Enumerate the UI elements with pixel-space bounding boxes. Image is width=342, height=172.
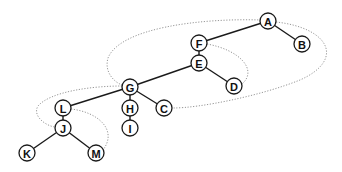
node-d: D [226, 78, 242, 94]
node-l: L [55, 100, 71, 116]
node-label: C [160, 103, 168, 115]
node-label: M [91, 148, 100, 160]
node-label: A [264, 16, 272, 28]
node-g: G [122, 79, 138, 95]
tree-nodes: ABFEDGHICLJKM [19, 13, 310, 161]
node-label: D [230, 81, 238, 93]
node-m: M [88, 145, 104, 161]
node-label: B [298, 39, 306, 51]
thread-g-j-loop [37, 86, 122, 127]
thread-curves [37, 20, 327, 150]
node-label: I [128, 123, 131, 135]
node-j: J [55, 120, 71, 136]
node-label: F [196, 38, 203, 50]
node-k: K [19, 145, 35, 161]
node-c: C [156, 100, 172, 116]
edge-g-l [63, 87, 130, 108]
node-i: I [122, 120, 138, 136]
edge-a-f [199, 21, 268, 43]
node-label: G [126, 82, 135, 94]
node-label: H [126, 103, 134, 115]
node-label: J [60, 123, 66, 135]
node-e: E [191, 55, 207, 71]
node-a: A [260, 13, 276, 29]
node-label: L [60, 103, 67, 115]
thread-f-d-loop [207, 44, 248, 84]
thread-l-m-loop [71, 109, 108, 150]
thread-outer-loop [107, 20, 326, 108]
node-label: E [195, 58, 202, 70]
node-label: K [23, 148, 31, 160]
node-h: H [122, 100, 138, 116]
tree-diagram: ABFEDGHICLJKM [0, 0, 342, 172]
node-b: B [294, 36, 310, 52]
node-f: F [191, 35, 207, 51]
edge-e-g [130, 63, 199, 87]
